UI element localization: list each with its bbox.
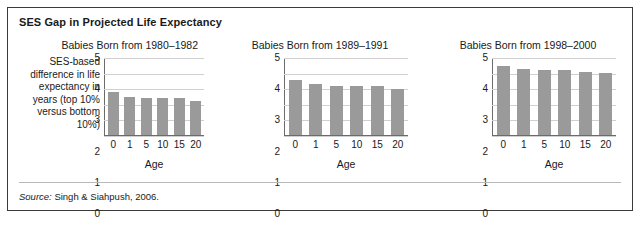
x-tick-label: 5 xyxy=(329,140,343,150)
x-tick-label: 1 xyxy=(123,140,137,150)
x-tick-labels: 015101520 xyxy=(493,136,616,150)
y-tick-label: 2 xyxy=(274,147,280,157)
y-tick-label: 4 xyxy=(482,84,488,94)
y-tick-label: 0 xyxy=(274,209,280,219)
y-tick-label: 4 xyxy=(94,84,100,94)
x-tick-label: 0 xyxy=(106,140,120,150)
bar xyxy=(190,101,201,135)
x-tick-label: 20 xyxy=(391,140,405,150)
chart-subtitle: Babies Born from 1989–1991 xyxy=(216,39,424,51)
x-tick-label: 20 xyxy=(189,140,203,150)
x-tick-label: 0 xyxy=(496,140,510,150)
bar xyxy=(124,97,135,136)
plot-area-2: 543210 015101520 Age xyxy=(284,58,408,136)
source-note: Source: Singh & Siahpush, 2006. xyxy=(19,191,159,202)
footer-divider xyxy=(19,182,621,183)
source-citation: Singh & Siahpush, 2006. xyxy=(52,191,159,202)
chart-panel-2: Babies Born from 1989–1991 543210 015101… xyxy=(216,39,424,174)
bar xyxy=(391,89,404,135)
bar xyxy=(141,98,152,135)
x-axis-title: Age xyxy=(284,158,408,170)
bar xyxy=(579,72,592,135)
x-tick-label: 15 xyxy=(578,140,592,150)
y-tick-label: 0 xyxy=(94,209,100,219)
x-tick-label: 1 xyxy=(517,140,531,150)
bar xyxy=(157,98,168,135)
bar xyxy=(174,98,185,135)
plot-area-1: 543210 015101520 Age xyxy=(104,58,204,136)
x-tick-label: 20 xyxy=(599,140,613,150)
y-tick-label: 2 xyxy=(482,147,488,157)
bar xyxy=(289,80,302,135)
x-tick-label: 15 xyxy=(172,140,186,150)
x-tick-label: 5 xyxy=(537,140,551,150)
x-axis-title: Age xyxy=(104,158,204,170)
chart-subtitle: Babies Born from 1980–1982 xyxy=(8,39,216,51)
y-tick-label: 5 xyxy=(274,53,280,63)
plot-area-3: 543210 015101520 Age xyxy=(492,58,616,136)
bar-series xyxy=(285,58,408,135)
y-tick-label: 3 xyxy=(274,115,280,125)
y-tick-label: 2 xyxy=(94,147,100,157)
y-tick-label: 5 xyxy=(482,53,488,63)
x-tick-label: 5 xyxy=(139,140,153,150)
y-tick-label: 3 xyxy=(94,115,100,125)
bar xyxy=(538,70,551,135)
chart-subtitle: Babies Born from 1998–2000 xyxy=(424,39,632,51)
bar xyxy=(371,86,384,135)
x-tick-labels: 015101520 xyxy=(105,136,204,150)
y-tick-label: 5 xyxy=(94,53,100,63)
x-tick-labels: 015101520 xyxy=(285,136,408,150)
x-axis-title: Age xyxy=(492,158,616,170)
chart-panel-1: Babies Born from 1980–1982 543210 015101… xyxy=(8,39,216,174)
x-tick-label: 10 xyxy=(558,140,572,150)
x-tick-label: 10 xyxy=(156,140,170,150)
x-tick-label: 10 xyxy=(350,140,364,150)
bar-series xyxy=(105,58,204,135)
bar xyxy=(108,92,119,135)
bar xyxy=(558,70,571,135)
page-title: SES Gap in Projected Life Expectancy xyxy=(19,16,222,28)
bar-series xyxy=(493,58,616,135)
x-tick-label: 0 xyxy=(288,140,302,150)
y-tick-label: 4 xyxy=(274,84,280,94)
source-label: Source: xyxy=(19,191,52,202)
chart-panels: Babies Born from 1980–1982 543210 015101… xyxy=(8,39,632,174)
chart-panel-3: Babies Born from 1998–2000 543210 015101… xyxy=(424,39,632,174)
bar xyxy=(309,84,322,135)
x-tick-label: 1 xyxy=(309,140,323,150)
bar xyxy=(599,73,612,135)
bar xyxy=(350,86,363,135)
bar xyxy=(330,86,343,135)
x-tick-label: 15 xyxy=(370,140,384,150)
figure-container: SES Gap in Projected Life Expectancy SES… xyxy=(7,7,633,211)
y-tick-label: 3 xyxy=(482,115,488,125)
y-tick-label: 0 xyxy=(482,209,488,219)
bar xyxy=(517,69,530,135)
bar xyxy=(497,66,510,135)
